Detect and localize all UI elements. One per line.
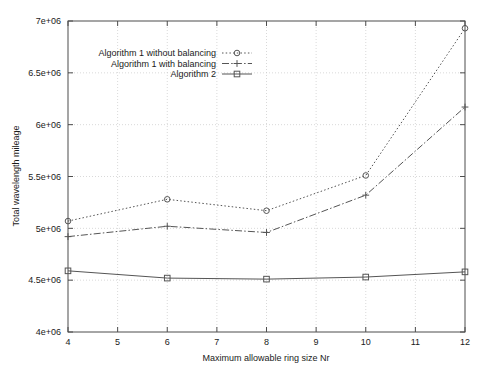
x-tick-label: 7 bbox=[214, 337, 219, 347]
x-tick-label: 10 bbox=[361, 337, 371, 347]
legend-item-label: Algorithm 1 with balancing bbox=[111, 59, 216, 69]
x-tick-label: 11 bbox=[411, 337, 420, 347]
y-axis-title: Total wavelength mileage bbox=[11, 125, 21, 226]
line-chart: 4e+064.5e+065e+065.5e+066e+066.5e+067e+0… bbox=[0, 0, 491, 376]
y-tick-label: 5e+06 bbox=[36, 224, 61, 234]
legend-item-label: Algorithm 2 bbox=[170, 69, 216, 79]
x-tick-label: 6 bbox=[165, 337, 170, 347]
y-tick-label: 6e+06 bbox=[36, 120, 61, 130]
y-tick-label: 6.5e+06 bbox=[28, 68, 61, 78]
chart-container: 4e+064.5e+065e+065.5e+066e+066.5e+067e+0… bbox=[0, 0, 491, 376]
x-tick-label: 4 bbox=[65, 337, 70, 347]
legend-item-label: Algorithm 1 without balancing bbox=[98, 48, 216, 58]
y-tick-label: 7e+06 bbox=[36, 16, 61, 26]
x-tick-label: 8 bbox=[264, 337, 269, 347]
y-tick-label: 4e+06 bbox=[36, 327, 61, 337]
chart-background bbox=[0, 0, 491, 376]
y-tick-label: 5.5e+06 bbox=[28, 172, 61, 182]
x-tick-label: 9 bbox=[314, 337, 319, 347]
y-tick-label: 4.5e+06 bbox=[28, 275, 61, 285]
x-tick-label: 12 bbox=[460, 337, 470, 347]
x-axis-title: Maximum allowable ring size Nr bbox=[202, 353, 329, 363]
x-tick-label: 5 bbox=[115, 337, 120, 347]
